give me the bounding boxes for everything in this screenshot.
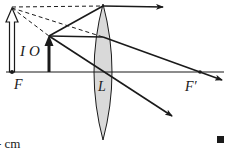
label-focus-left: F (13, 77, 23, 92)
label-object: O (29, 43, 40, 59)
focus-left-point (10, 70, 14, 74)
real-rays (49, 6, 222, 116)
image-arrow (6, 8, 18, 74)
ray-parallel-in (49, 36, 103, 37)
object-arrow (45, 35, 54, 72)
lens-ray-diagram: I O F L F′ - cm (0, 0, 228, 152)
label-lens: L (97, 79, 106, 94)
focus-right-point (198, 70, 202, 74)
ray-to-lens-top (49, 6, 103, 36)
label-unit-fragment: - cm (0, 136, 20, 151)
ray-through-focus (103, 37, 222, 80)
virtual-ray-extensions (12, 6, 103, 37)
end-of-solution-mark (217, 136, 224, 143)
label-image: I (19, 43, 26, 59)
ray-parallel-out (103, 6, 163, 7)
dashed-line-to-lens (12, 8, 103, 37)
dashed-line-top (12, 6, 103, 7)
label-focus-right: F′ (184, 79, 198, 94)
